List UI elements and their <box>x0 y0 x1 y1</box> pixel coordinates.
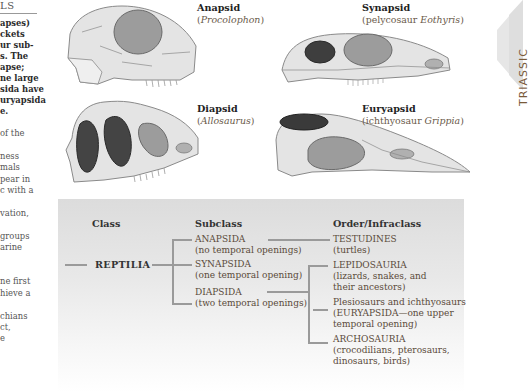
body-line: pear in <box>0 174 62 185</box>
body-line: vation, <box>0 208 62 219</box>
synapsid-skull-illustration <box>278 30 453 90</box>
caption-line: sida have <box>0 84 62 95</box>
body-line: c with a <box>0 185 62 196</box>
connector-line <box>268 239 330 241</box>
body-line: e <box>0 333 62 344</box>
caption-line: e. <box>0 106 62 117</box>
caption-line: ne large <box>0 73 62 84</box>
body-line <box>0 219 62 230</box>
caption-line: apses) <box>0 18 62 29</box>
period-label: TRIASSIC <box>517 48 530 106</box>
connector-line <box>172 303 192 305</box>
connector-line <box>172 264 192 266</box>
body-line <box>0 253 62 264</box>
body-line: arine <box>0 242 62 253</box>
body-line: mals <box>0 162 62 173</box>
diapsid-skull-illustration <box>64 98 199 186</box>
connector-line <box>313 309 328 311</box>
body-line: of the <box>0 128 62 139</box>
connector-line <box>267 291 309 293</box>
section-heading-fragment: LS <box>0 0 37 14</box>
connector-line <box>308 342 328 344</box>
connector-line <box>308 265 328 267</box>
skull-type: Synapsid <box>362 2 464 14</box>
header-order: Order/Infraclass <box>333 218 421 229</box>
order-testudines: TESTUDINES (turtles) <box>333 234 397 256</box>
euryapsid-label: Euryapsid (ichthyosaur Grippia) <box>362 103 464 127</box>
synapsid-label: Synapsid (pelycosaur Eothyris) <box>362 2 464 26</box>
skull-example: (ichthyosaur Grippia) <box>362 115 464 127</box>
body-line <box>0 139 62 150</box>
body-line: ct, <box>0 322 62 333</box>
order-archosauria: ARCHOSAURIA (crocodilians, pterosaurs, d… <box>333 334 450 366</box>
caption-line: s. The <box>0 51 62 62</box>
skull-example: (Allosaurus) <box>197 115 255 127</box>
body-line: ne first <box>0 276 62 287</box>
caption-bold-text: apses) ckets ur sub- s. The apse; ne lar… <box>0 18 62 117</box>
body-line: hieve a <box>0 288 62 299</box>
skull-type: Anapsid <box>197 2 264 14</box>
body-line: chians <box>0 311 62 322</box>
caption-line: ur sub- <box>0 40 62 51</box>
bracket-line <box>308 265 310 343</box>
body-line: groups <box>0 231 62 242</box>
header-subclass: Subclass <box>195 218 242 229</box>
order-euryapsida: Plesiosaurs and ichthyosaurs (EURYAPSIDA… <box>333 297 466 329</box>
caption-line: apse; <box>0 62 62 73</box>
body-line <box>0 299 62 310</box>
anapsid-label: Anapsid (Procolophon) <box>197 2 264 26</box>
period-tab: TRIASSIC <box>489 0 523 90</box>
body-line: ness <box>0 151 62 162</box>
order-lepidosauria: LEPIDOSAURIA (lizards, snakes, and their… <box>333 260 427 292</box>
caption-line: ckets <box>0 29 62 40</box>
skull-example: (pelycosaur Eothyris) <box>362 14 464 26</box>
connector-line <box>172 239 192 241</box>
subclass-anapsida: ANAPSIDA (no temporal openings) <box>195 234 302 256</box>
skull-type: Diapsid <box>197 103 255 115</box>
body-text-fragment: of the ness mals pear in c with a vation… <box>0 128 62 345</box>
bracket-line <box>172 239 174 304</box>
caption-line: uryapsida <box>0 95 62 106</box>
skull-type: Euryapsid <box>362 103 464 115</box>
class-reptilia: REPTILIA <box>95 259 150 270</box>
subclass-synapsida: SYNAPSIDA (one temporal opening) <box>195 259 302 281</box>
anapsid-skull-illustration <box>62 2 197 90</box>
connector-line <box>152 264 174 266</box>
connector-line <box>65 264 87 266</box>
body-line <box>0 265 62 276</box>
skull-example: (Procolophon) <box>197 14 264 26</box>
body-line <box>0 196 62 207</box>
diapsid-label: Diapsid (Allosaurus) <box>197 103 255 127</box>
header-class: Class <box>92 218 120 229</box>
